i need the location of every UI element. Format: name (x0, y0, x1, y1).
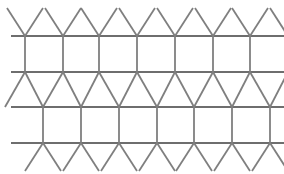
tessellation-diagram (0, 0, 284, 174)
tessellation-canvas (0, 0, 284, 174)
